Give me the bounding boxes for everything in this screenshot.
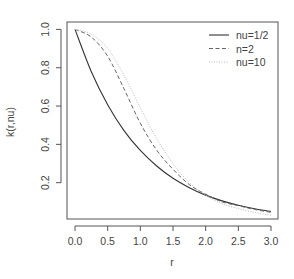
x-tick-label: 1.5 [166, 235, 181, 247]
x-axis: 0.00.51.01.52.02.53.0 [68, 226, 279, 247]
x-axis-title: r [170, 256, 174, 268]
y-tick-label: 0.2 [39, 175, 51, 190]
legend: nu=1/2n=2nu=10 [209, 29, 269, 68]
x-tick-label: 2.5 [231, 235, 246, 247]
x-tick-label: 3.0 [264, 235, 279, 247]
legend-label: n=2 [236, 43, 254, 55]
x-tick-label: 1.0 [133, 235, 148, 247]
x-tick-label: 2.0 [198, 235, 213, 247]
y-tick-label: 1.0 [39, 22, 51, 37]
x-tick-label: 0.0 [68, 235, 83, 247]
y-tick-label: 0.4 [39, 137, 51, 152]
x-tick-label: 0.5 [100, 235, 115, 247]
y-axis-title: k(r,nu) [4, 107, 16, 137]
chart: 0.00.51.01.52.02.53.0 0.20.40.60.81.0 nu… [0, 0, 294, 279]
legend-label: nu=1/2 [236, 29, 269, 41]
y-tick-label: 0.6 [39, 99, 51, 114]
y-tick-label: 0.8 [39, 60, 51, 75]
legend-label: nu=10 [236, 56, 266, 68]
y-axis: 0.20.40.60.81.0 [39, 22, 61, 190]
